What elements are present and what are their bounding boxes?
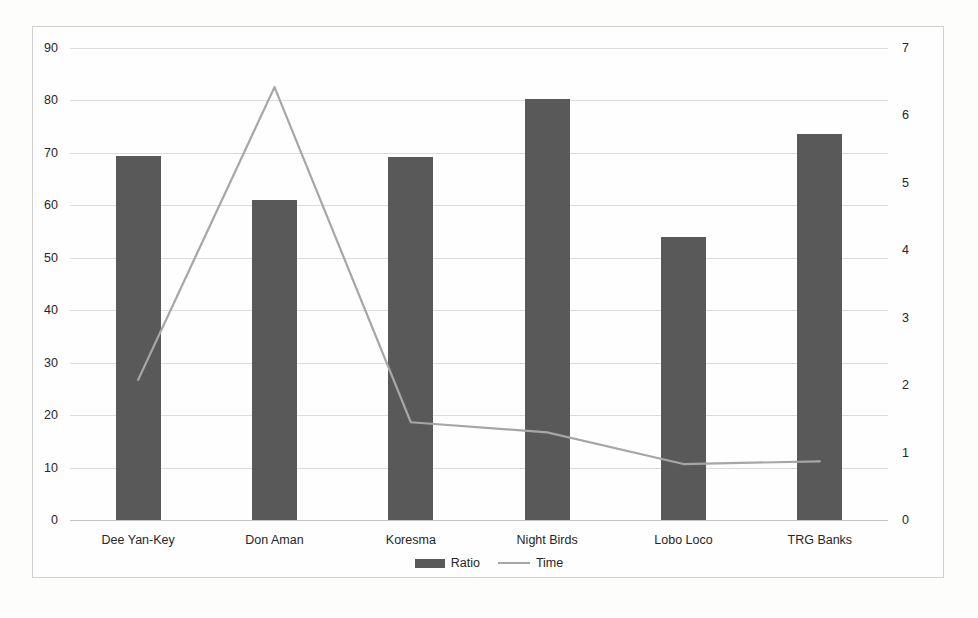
plot-area: 0102030405060708090 01234567 Dee Yan-Key… — [70, 48, 888, 520]
legend-label-time: Time — [536, 556, 563, 570]
y-axis-left-tick-label: 60 — [44, 198, 58, 212]
y-axis-left-tick-label: 20 — [44, 408, 58, 422]
y-axis-right-tick-label: 6 — [902, 108, 909, 122]
y-axis-right-tick-label: 1 — [902, 446, 909, 460]
legend-label-ratio: Ratio — [451, 556, 480, 570]
y-axis-left-tick-label: 30 — [44, 356, 58, 370]
chart-legend: Ratio Time — [0, 556, 978, 570]
y-axis-left-tick-label: 90 — [44, 41, 58, 55]
x-axis-tick-label: Dee Yan-Key — [102, 533, 175, 547]
y-axis-right-tick-label: 7 — [902, 41, 909, 55]
y-axis-right-tick-label: 2 — [902, 378, 909, 392]
line-swatch-icon — [498, 562, 530, 564]
bar-swatch-icon — [415, 559, 445, 568]
chart-container: 0102030405060708090 01234567 Dee Yan-Key… — [0, 0, 978, 618]
x-axis-tick-label: Koresma — [386, 533, 436, 547]
line-series-time — [70, 48, 888, 520]
x-axis-tick-label: Night Birds — [517, 533, 578, 547]
legend-item-time: Time — [498, 556, 563, 570]
y-axis-right-tick-label: 3 — [902, 311, 909, 325]
y-axis-left-tick-label: 10 — [44, 461, 58, 475]
y-axis-right-tick-label: 4 — [902, 243, 909, 257]
gridline — [70, 520, 888, 521]
y-axis-right-tick-label: 0 — [902, 513, 909, 527]
y-axis-left-tick-label: 40 — [44, 303, 58, 317]
x-axis-tick-label: Lobo Loco — [654, 533, 712, 547]
y-axis-right-tick-label: 5 — [902, 176, 909, 190]
y-axis-left-tick-label: 50 — [44, 251, 58, 265]
y-axis-left-tick-label: 0 — [51, 513, 58, 527]
time-line-path — [138, 87, 820, 464]
x-axis-tick-label: Don Aman — [245, 533, 303, 547]
y-axis-left-tick-label: 80 — [44, 93, 58, 107]
legend-item-ratio: Ratio — [415, 556, 480, 570]
x-axis-tick-label: TRG Banks — [788, 533, 853, 547]
y-axis-left-tick-label: 70 — [44, 146, 58, 160]
